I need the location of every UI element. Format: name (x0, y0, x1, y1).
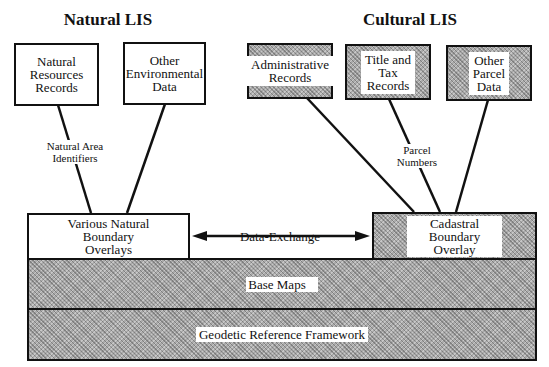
other-environmental-data-box: Other Environmental Data (123, 42, 206, 105)
natural-boundary-overlays-label: Various Natural Boundary Overlays (68, 217, 150, 256)
line-other-environmental (127, 104, 165, 213)
other-parcel-data-label: Other Parcel Data (469, 52, 509, 95)
line-other-parcel (456, 100, 488, 212)
title-tax-records-box: Title and Tax Records (345, 44, 431, 100)
title-tax-records-label: Title and Tax Records (361, 51, 415, 94)
base-maps-label: Base Maps (246, 277, 317, 292)
natural-resources-records-label: Natural Resources Records (30, 55, 83, 94)
other-parcel-data-box: Other Parcel Data (446, 45, 532, 101)
geodetic-reference-framework-layer: Geodetic Reference Framework (27, 308, 537, 361)
cadastral-boundary-overlay-label: Cadastral Boundary Overlay (407, 216, 502, 257)
geodetic-reference-framework-label: Geodetic Reference Framework (196, 327, 368, 342)
arrowhead-right-icon (355, 231, 370, 241)
natural-lis-title: Natural LIS (58, 10, 158, 30)
arrowhead-left-icon (192, 231, 207, 241)
other-environmental-data-label: Other Environmental Data (126, 54, 203, 93)
cultural-lis-title: Cultural LIS (350, 10, 470, 30)
natural-area-identifiers-label: Natural Area Identifiers (40, 140, 110, 164)
cadastral-boundary-overlay-box: Cadastral Boundary Overlay (372, 212, 537, 260)
natural-resources-records-box: Natural Resources Records (14, 43, 99, 106)
base-maps-layer: Base Maps (27, 258, 537, 310)
administrative-records-label: Administrative Records (247, 56, 333, 86)
natural-boundary-overlays-box: Various Natural Boundary Overlays (27, 213, 190, 260)
parcel-numbers-label: Parcel Numbers (392, 144, 442, 168)
administrative-records-box: Administrative Records (247, 43, 333, 99)
